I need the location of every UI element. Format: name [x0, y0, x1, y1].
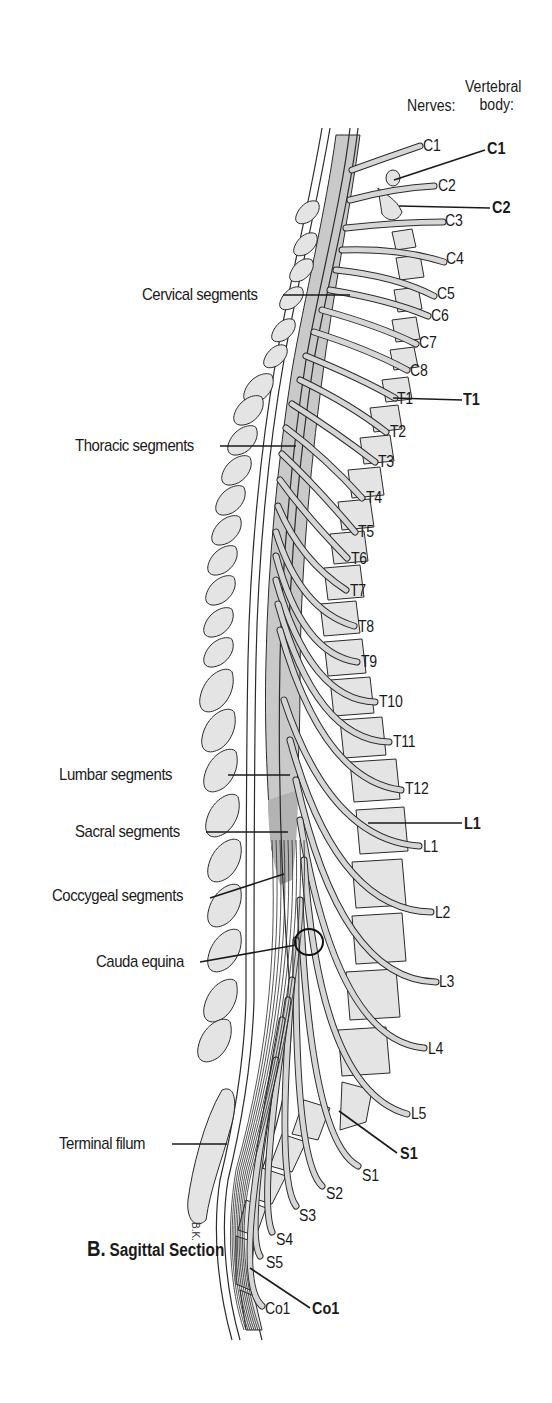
- nerves-header-text: Nerves:: [407, 97, 456, 114]
- vertebral-body-header-line2: body:: [465, 96, 521, 114]
- vertebral-body-label-co1: Co1: [312, 1300, 339, 1317]
- nerve-label-t7: T7: [350, 583, 366, 599]
- nerve-label-l5: L5: [411, 1106, 426, 1122]
- nerve-label-t11: T11: [393, 734, 415, 750]
- nerve-label-c2: C2: [438, 178, 455, 194]
- nerve-label-t4: T4: [366, 490, 382, 506]
- nerve-label-t10: T10: [379, 694, 402, 710]
- nerve-label-l1: L1: [423, 839, 438, 855]
- nerve-label-s4: S4: [276, 1232, 293, 1248]
- vertebral-body-header: Vertebral body:: [465, 78, 521, 115]
- nerve-label-t12: T12: [405, 781, 428, 797]
- nerve-label-c5: C5: [437, 286, 454, 302]
- nerve-label-s1: S1: [362, 1168, 379, 1184]
- nerve-label-c4: C4: [446, 251, 463, 267]
- label-lumbar-segments: Lumbar segments: [59, 766, 172, 783]
- nerve-label-s5: S5: [266, 1255, 283, 1271]
- nerve-label-l3: L3: [439, 974, 454, 990]
- vertebral-body-label-c2: C2: [492, 199, 510, 216]
- nerve-label-co1: Co1: [265, 1301, 290, 1317]
- spinal-cord-sagittal-diagram: B.K. Nerves: Vertebral body: Cervical se…: [0, 0, 552, 1403]
- label-sacral-segments: Sacral segments: [75, 823, 180, 840]
- nerve-label-c8: C8: [410, 363, 427, 379]
- vertebral-body-label-l1: L1: [464, 815, 481, 832]
- vertebral-body-header-line1: Vertebral: [465, 78, 521, 96]
- nerve-label-t5: T5: [358, 524, 374, 540]
- nerve-label-t3: T3: [378, 454, 394, 470]
- label-cervical-segments: Cervical segments: [142, 286, 258, 303]
- nerve-label-c3: C3: [445, 213, 462, 229]
- figure-caption: B. Sagittal Section: [87, 1236, 224, 1262]
- nerve-label-t1: T1: [397, 391, 413, 407]
- nerve-label-t9: T9: [361, 654, 377, 670]
- nerve-label-t2: T2: [390, 424, 406, 440]
- nerve-label-c1: C1: [423, 138, 440, 154]
- label-cauda-equina: Cauda equina: [96, 953, 184, 970]
- nerve-label-t6: T6: [351, 551, 367, 567]
- vertebral-body-label-c1: C1: [487, 140, 505, 157]
- vertebral-body-label-t1: T1: [463, 391, 480, 408]
- nerve-label-s3: S3: [299, 1208, 316, 1224]
- label-thoracic-segments: Thoracic segments: [75, 437, 194, 454]
- nerve-label-l4: L4: [428, 1041, 443, 1057]
- nerve-label-s2: S2: [326, 1186, 343, 1202]
- label-terminal-filum: Terminal filum: [59, 1135, 145, 1152]
- label-coccygeal-segments: Coccygeal segments: [52, 887, 183, 904]
- nerve-label-t8: T8: [358, 619, 374, 635]
- nerve-label-c6: C6: [431, 308, 448, 324]
- diagram-artwork: B.K.: [0, 0, 552, 1403]
- vertebral-body-label-s1: S1: [400, 1145, 418, 1162]
- nerve-label-c7: C7: [419, 335, 436, 351]
- nerves-header: Nerves:: [407, 97, 456, 115]
- caption-letter: B.: [87, 1236, 106, 1261]
- caption-text: Sagittal Section: [109, 1240, 224, 1260]
- nerve-label-l2: L2: [435, 905, 450, 921]
